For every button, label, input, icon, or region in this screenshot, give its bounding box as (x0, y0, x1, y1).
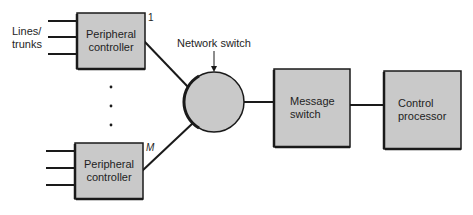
peripheral-controller-m-label: Peripheral controller (75, 158, 143, 184)
peripheral-controller-1-label: Peripheral controller (77, 28, 145, 54)
network-switch-label: Network switch (176, 37, 252, 50)
lines-trunks-label-line1: Lines/ (12, 25, 42, 38)
peripheral-controller-1-index: 1 (148, 11, 154, 24)
peripheral-controller-m-line1: Peripheral (75, 158, 143, 171)
lines-trunks-label: Lines/ trunks (12, 25, 42, 51)
control-processor-label: Control processor (398, 97, 446, 123)
message-switch-line2: switch (290, 108, 335, 121)
control-processor-line1: Control (398, 97, 446, 110)
control-processor-line2: processor (398, 110, 446, 123)
peripheral-controller-1-line1: Peripheral (77, 28, 145, 41)
message-switch-label: Message switch (290, 95, 335, 121)
ellipsis-dots (110, 86, 113, 127)
lines-trunks-label-line2: trunks (12, 38, 42, 51)
peripheral-controller-m-index: M (146, 141, 154, 154)
input-lines-bottom (46, 151, 76, 185)
peripheral-controller-1-line2: controller (77, 41, 145, 54)
network-switch-arrow-icon (211, 51, 217, 72)
peripheral-controller-m-line2: controller (75, 171, 143, 184)
message-switch-line1: Message (290, 95, 335, 108)
input-lines-top (48, 21, 78, 54)
